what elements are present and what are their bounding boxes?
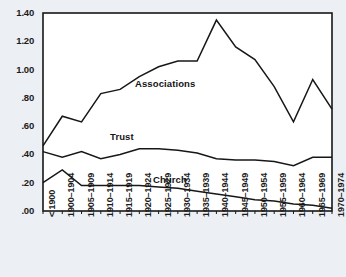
x-tick-label: 1940–1944 bbox=[220, 173, 230, 217]
x-tick-label: 1935–1939 bbox=[201, 173, 211, 217]
y-tick-label: 1.40 bbox=[0, 7, 34, 18]
y-tick-label: .80 bbox=[0, 92, 34, 103]
x-tick-label: 1915–1919 bbox=[124, 173, 134, 217]
x-tick-label: 1960–1964 bbox=[297, 173, 307, 217]
x-tick-label: 1945–1949 bbox=[240, 173, 250, 217]
x-tick-label: 1955–1959 bbox=[278, 173, 288, 217]
y-tick-label: 1.00 bbox=[0, 64, 34, 75]
series-label-associations: Associations bbox=[135, 78, 195, 89]
x-tick-label: < 1900 bbox=[47, 190, 57, 217]
series-label-church: Church bbox=[153, 174, 187, 185]
x-tick-label: 1920–1924 bbox=[143, 173, 153, 217]
chart-plot-area bbox=[0, 0, 346, 277]
y-tick-label: .60 bbox=[0, 120, 34, 131]
x-tick-label: 1905–1909 bbox=[86, 173, 96, 217]
x-tick-label: 1950–1954 bbox=[259, 173, 269, 217]
x-tick-label: 1900–1904 bbox=[66, 173, 76, 217]
x-tick-label: 1970–1974 bbox=[336, 173, 346, 217]
y-tick-label: .20 bbox=[0, 177, 34, 188]
series-label-trust: Trust bbox=[110, 131, 134, 142]
y-tick-label: 1.20 bbox=[0, 35, 34, 46]
x-tick-label: 1965–1969 bbox=[317, 173, 327, 217]
chart-figure: 1.401.201.00.80.60.40.20.00 < 19001900–1… bbox=[0, 0, 346, 277]
y-tick-label: .40 bbox=[0, 148, 34, 159]
x-tick-label: 1910–1914 bbox=[105, 173, 115, 217]
y-tick-label: .00 bbox=[0, 205, 34, 216]
